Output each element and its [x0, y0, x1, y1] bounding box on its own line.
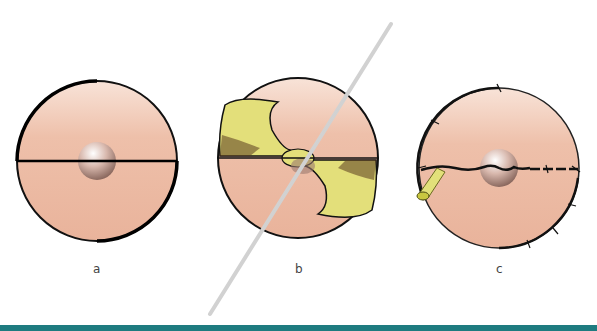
bottom-accent-bar	[0, 325, 597, 331]
panel-label-c: c	[496, 262, 503, 276]
panel-label-a: a	[93, 262, 100, 276]
panel-c	[417, 84, 580, 248]
surgical-figure: a b c	[0, 0, 597, 331]
panel-a	[17, 81, 177, 241]
panel-label-b: b	[295, 262, 303, 276]
